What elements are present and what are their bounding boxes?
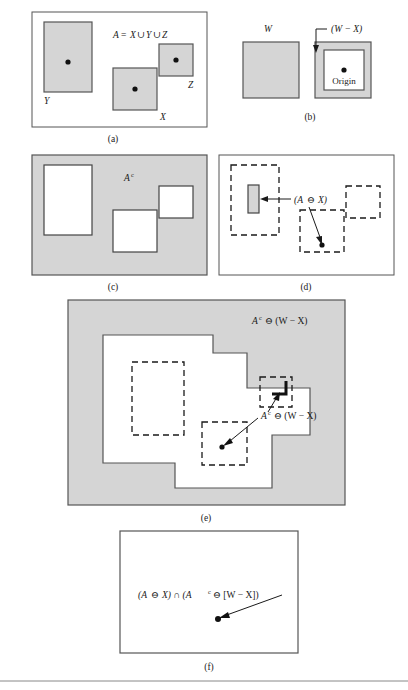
label-a-c: A (123, 173, 130, 183)
panel-a-formula: A = X ∪ Y ∪ Z (112, 30, 168, 40)
formula-a-z: Z (162, 30, 168, 40)
hit-or-miss-result-point (215, 616, 221, 622)
label-a-c-sup: c (131, 171, 134, 178)
erosion-symbol-f-1: ⊖ (151, 590, 159, 600)
label-origin: Origin (332, 76, 356, 86)
label-d-formula: (A ⊖ X) (294, 195, 327, 206)
set-x-origin-dot (132, 86, 137, 91)
caption-f: (f) (204, 662, 214, 673)
label-f-tail: ⊖ [W − X]) (213, 590, 259, 601)
complement-hole-y (44, 165, 92, 235)
label-e-outer-a: A (251, 316, 258, 326)
panel-d-frame (219, 155, 394, 275)
label-e-inner-sup: c (268, 409, 271, 416)
panel-f: (A ⊖ X) ∩ (A c ⊖ [W − X]) (f) (120, 531, 298, 673)
formula-a-lhs: A (112, 30, 119, 40)
label-x: X (159, 112, 167, 122)
panel-a: Y Z X A = X ∪ Y ∪ Z (a) (32, 12, 207, 145)
label-f-open: (A (138, 590, 147, 601)
caption-c: (c) (108, 282, 119, 293)
label-w-minus-x: (W − X) (331, 24, 362, 35)
formula-a-x: X (129, 30, 137, 40)
set-y-origin-dot (65, 59, 70, 64)
label-e-outer-tail: ⊖ (W − X) (265, 316, 307, 327)
label-e-inner-a: A (260, 411, 267, 421)
set-z-origin-dot (173, 57, 178, 62)
origin-dot-b (341, 67, 346, 72)
caption-a: (a) (108, 134, 119, 145)
label-w: W (264, 24, 273, 34)
formula-a-union-1: ∪ (137, 30, 145, 40)
set-y-rect (44, 22, 92, 92)
label-f-mid: X) ∩ (A (161, 590, 192, 601)
complement-hole-x (113, 210, 157, 252)
eroded-bar-y (248, 185, 259, 213)
panel-d: (A ⊖ X) (d) (219, 155, 394, 293)
label-e-inner-tail: ⊖ (W − X) (274, 411, 316, 422)
label-z: Z (188, 80, 194, 90)
panel-e: A c ⊖ (W − X) A c ⊖ (W − X) (e) (68, 300, 345, 524)
caption-d: (d) (300, 282, 311, 293)
label-e-outer-sup: c (259, 314, 262, 321)
panel-b: W Origin (W − X) (b) (243, 24, 371, 123)
label-f-sup: c (208, 588, 211, 595)
set-w-rect (243, 42, 299, 98)
panel-c: A c (c) (32, 155, 207, 293)
formula-a-equals: = (121, 30, 126, 40)
label-d-open: (A (294, 195, 303, 206)
caption-b: (b) (304, 112, 315, 123)
formula-a-union-2: ∪ (153, 30, 161, 40)
caption-e: (e) (201, 513, 212, 524)
erosion-symbol-d: ⊖ (307, 195, 315, 205)
label-d-close: X) (317, 195, 327, 206)
complement-hole-z (159, 186, 193, 218)
figure-canvas: Y Z X A = X ∪ Y ∪ Z (a) W Origin (0, 0, 408, 690)
figure-root: Y Z X A = X ∪ Y ∪ Z (a) W Origin (0, 0, 408, 690)
